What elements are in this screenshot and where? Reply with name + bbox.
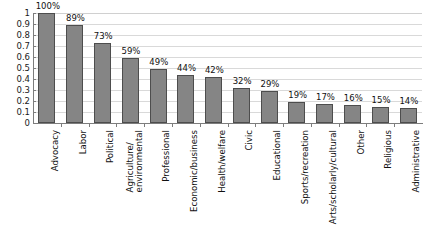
- x-axis-tick-mark: [172, 123, 173, 127]
- x-axis-tick-mark: [228, 123, 229, 127]
- x-axis-category-label: Sports/recreation: [301, 130, 310, 204]
- bar-value-label: 42%: [205, 66, 224, 75]
- x-axis-category-label: Agriculture/environmental: [126, 130, 144, 192]
- y-axis-tick-label: 0.1: [16, 108, 30, 117]
- bar[interactable]: [66, 13, 83, 123]
- x-axis-tick-mark: [283, 123, 284, 127]
- y-axis-tick-label: 0: [25, 119, 30, 128]
- bar-rect: [288, 102, 305, 123]
- x-axis-category-label: Religious: [384, 130, 393, 169]
- bar-rect: [66, 25, 83, 123]
- bar[interactable]: [400, 13, 417, 123]
- bar-value-label: 14%: [399, 97, 418, 106]
- x-axis-tick-mark: [89, 123, 90, 127]
- y-axis-tick-label: 0.3: [16, 86, 30, 95]
- y-axis-tick-mark: [33, 35, 36, 36]
- gridline: [33, 68, 422, 69]
- y-axis-tick-label: 0.6: [16, 53, 30, 62]
- y-axis-tick-mark: [33, 79, 36, 80]
- bar[interactable]: [38, 13, 55, 123]
- y-axis-tick-label: 0.8: [16, 31, 30, 40]
- bar-value-label: 29%: [260, 80, 279, 89]
- x-axis-tick-mark: [311, 123, 312, 127]
- y-axis-tick-label: 0.2: [16, 97, 30, 106]
- bar[interactable]: [150, 13, 167, 123]
- bar-value-label: 89%: [66, 14, 85, 23]
- bar-rect: [261, 91, 278, 123]
- x-axis-tick-mark: [394, 123, 395, 127]
- bar[interactable]: [344, 13, 361, 123]
- x-axis-tick-mark: [144, 123, 145, 127]
- bar-rect: [372, 107, 389, 124]
- bar-rect: [177, 75, 194, 123]
- y-axis-tick-mark: [33, 123, 36, 124]
- y-axis-tick-labels: 00.10.20.30.40.50.60.70.80.91: [0, 0, 30, 244]
- bar-rect: [122, 58, 139, 123]
- bar-value-label: 73%: [94, 32, 113, 41]
- gridline: [33, 112, 422, 113]
- x-axis-category-label: Civic: [245, 130, 254, 151]
- x-axis-category-label: Health/welfare: [218, 130, 227, 193]
- x-axis-tick-mark: [339, 123, 340, 127]
- x-axis-category-label: Professional: [162, 130, 171, 182]
- bar-value-label: 16%: [344, 94, 363, 103]
- gridline: [33, 79, 422, 80]
- x-axis-tick-mark: [116, 123, 117, 127]
- bar-rect: [150, 69, 167, 123]
- bar-rect: [205, 77, 222, 123]
- x-axis-tick-mark: [200, 123, 201, 127]
- y-axis-tick-mark: [33, 24, 36, 25]
- gridline: [33, 46, 422, 47]
- gridline: [33, 35, 422, 36]
- y-axis-tick-label: 0.9: [16, 20, 30, 29]
- y-axis-tick-mark: [33, 90, 36, 91]
- bar[interactable]: [372, 13, 389, 123]
- bar[interactable]: [94, 13, 111, 123]
- bar[interactable]: [261, 13, 278, 123]
- bar-rect: [38, 13, 55, 123]
- gridline: [33, 90, 422, 91]
- bar-chart: 00.10.20.30.40.50.60.70.80.91 100%89%73%…: [0, 0, 437, 244]
- bar-value-label: 15%: [372, 96, 391, 105]
- x-axis-category-label: Administrative: [412, 130, 421, 193]
- y-axis-tick-mark: [33, 46, 36, 47]
- bar-value-label: 49%: [149, 58, 168, 67]
- bar-rect: [344, 105, 361, 123]
- x-axis-category-label: Other: [357, 130, 366, 154]
- x-axis-tick-mark: [366, 123, 367, 127]
- x-axis-category-label: Arts/scholarly/cultural: [329, 130, 338, 224]
- x-axis-tick-mark: [61, 123, 62, 127]
- bar[interactable]: [233, 13, 250, 123]
- bar-value-label: 59%: [122, 47, 141, 56]
- bar-value-label: 19%: [288, 91, 307, 100]
- bar[interactable]: [316, 13, 333, 123]
- y-axis-tick-mark: [33, 13, 36, 14]
- bar-value-label: 17%: [316, 93, 335, 102]
- y-axis-tick-label: 1: [25, 9, 30, 18]
- x-axis-tick-mark: [255, 123, 256, 127]
- x-axis-category-label: Political: [106, 130, 115, 163]
- bar-rect: [316, 104, 333, 123]
- x-axis-category-label: Labor: [79, 130, 88, 154]
- y-axis-tick-label: 0.4: [16, 75, 30, 84]
- y-axis-tick-mark: [33, 112, 36, 113]
- bar[interactable]: [122, 13, 139, 123]
- y-axis-tick-mark: [33, 57, 36, 58]
- x-axis-category-label: Advocacy: [51, 130, 60, 171]
- bar-value-label: 32%: [233, 77, 252, 86]
- gridline: [33, 13, 422, 14]
- gridline: [33, 101, 422, 102]
- bar-rect: [233, 88, 250, 123]
- y-axis-tick-label: 0.7: [16, 42, 30, 51]
- x-axis-category-label-line: environmental: [135, 130, 144, 192]
- plot-area: [33, 13, 422, 123]
- x-axis-category-label: Economic/business: [190, 130, 199, 212]
- bar[interactable]: [288, 13, 305, 123]
- bar-value-label: 100%: [36, 2, 60, 11]
- bar-rect: [400, 108, 417, 123]
- gridline: [33, 57, 422, 58]
- bar-rect: [94, 43, 111, 123]
- x-axis-category-label: Educational: [273, 130, 282, 180]
- y-axis-tick-mark: [33, 68, 36, 69]
- y-axis-tick-label: 0.5: [16, 64, 30, 73]
